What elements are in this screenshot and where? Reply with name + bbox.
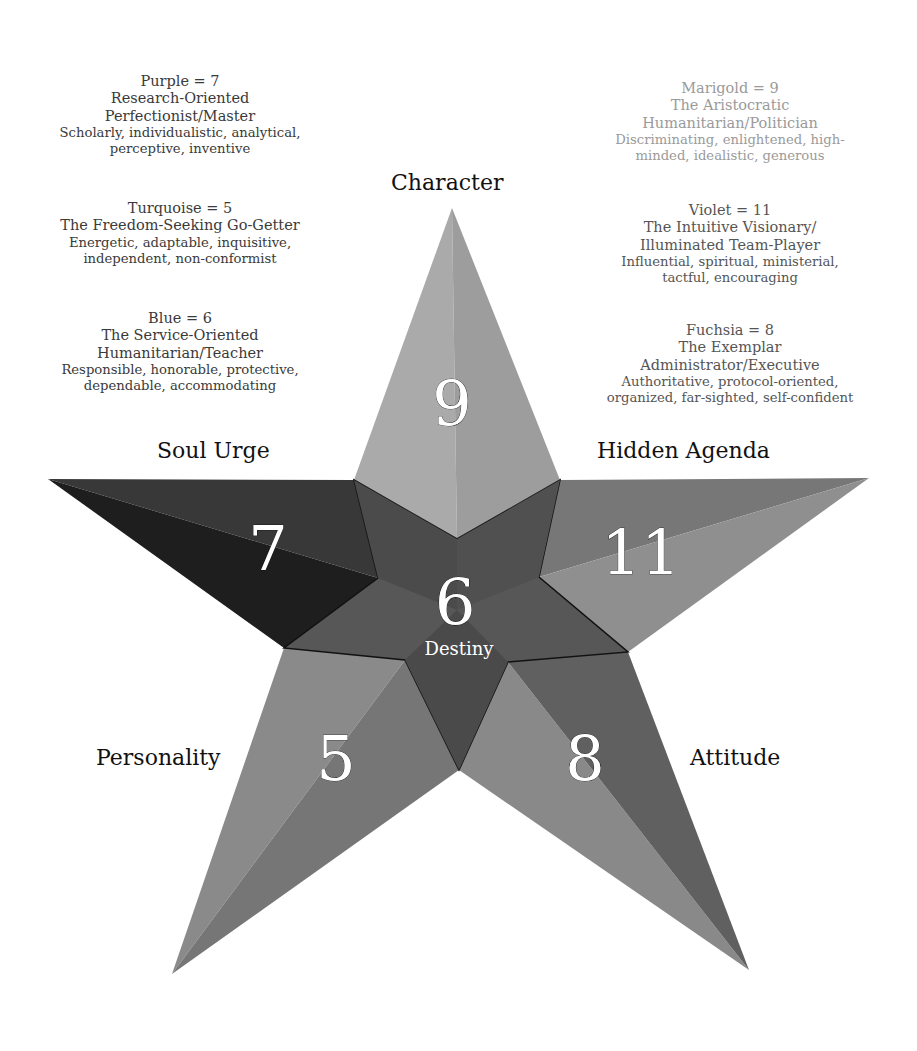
number-destiny: 6 — [435, 566, 476, 640]
number-personality: 5 — [316, 722, 355, 795]
numerology-star: 9 7 11 6 Destiny 5 8 — [0, 0, 917, 1051]
number-character: 9 — [432, 367, 471, 440]
arm-personality — [172, 648, 459, 974]
label-destiny: Destiny — [424, 638, 494, 659]
number-attitude: 8 — [565, 722, 604, 795]
arm-attitude — [459, 652, 749, 970]
number-hidden-agenda: 11 — [602, 516, 681, 589]
number-soul-urge: 7 — [248, 512, 287, 585]
